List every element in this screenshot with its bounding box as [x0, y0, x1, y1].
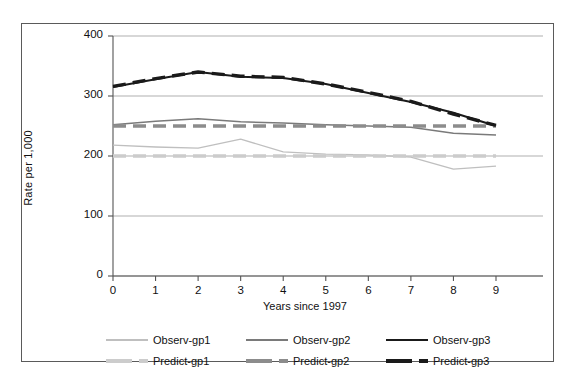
legend-swatch-icon [246, 333, 288, 347]
legend-entry-observ-gp3[interactable]: Observ-gp3 [386, 330, 526, 350]
legend-swatch-icon [246, 354, 288, 368]
legend-row-1: Observ-gp1Observ-gp2Observ-gp3 [106, 330, 526, 350]
legend-entry-predict-gp3[interactable]: Predict-gp3 [386, 351, 526, 371]
x-tick-label-4: 4 [268, 284, 298, 296]
series-observ-gp3 [113, 72, 496, 126]
legend-entry-observ-gp2[interactable]: Observ-gp2 [246, 330, 386, 350]
legend-label: Predict-gp3 [428, 355, 489, 367]
legend-label: Predict-gp2 [288, 355, 349, 367]
legend-label: Observ-gp1 [148, 334, 210, 346]
legend-label: Predict-gp1 [148, 355, 209, 367]
figure: Rate per 1,000 Years since 1997 01002003… [0, 0, 575, 385]
x-tick-label-1: 1 [141, 284, 171, 296]
x-tick-label-6: 6 [353, 284, 383, 296]
legend-label: Observ-gp2 [288, 334, 350, 346]
legend-label: Observ-gp3 [428, 334, 490, 346]
legend-swatch-icon [386, 354, 428, 368]
y-tick-label-300: 300 [57, 88, 103, 100]
y-tick-label-100: 100 [57, 208, 103, 220]
line-chart-plot [0, 0, 575, 385]
y-tick-label-400: 400 [57, 28, 103, 40]
y-tick-label-200: 200 [57, 148, 103, 160]
legend-entry-predict-gp2[interactable]: Predict-gp2 [246, 351, 386, 371]
x-tick-label-3: 3 [226, 284, 256, 296]
legend-swatch-icon [106, 354, 148, 368]
y-tick-label-0: 0 [57, 268, 103, 280]
legend-swatch-icon [386, 333, 428, 347]
legend-entry-observ-gp1[interactable]: Observ-gp1 [106, 330, 246, 350]
x-axis-title: Years since 1997 [113, 300, 497, 312]
x-tick-label-2: 2 [183, 284, 213, 296]
legend-entry-predict-gp1[interactable]: Predict-gp1 [106, 351, 246, 371]
x-tick-label-8: 8 [438, 284, 468, 296]
x-tick-label-9: 9 [481, 284, 511, 296]
y-axis-title: Rate per 1,000 [22, 108, 34, 228]
x-tick-label-5: 5 [311, 284, 341, 296]
chart-legend: Observ-gp1Observ-gp2Observ-gp3Predict-gp… [106, 330, 526, 374]
legend-swatch-icon [106, 333, 148, 347]
x-tick-label-0: 0 [98, 284, 128, 296]
legend-row-2: Predict-gp1Predict-gp2Predict-gp3 [106, 351, 526, 371]
x-tick-label-7: 7 [396, 284, 426, 296]
series-observ-gp1 [113, 139, 496, 169]
